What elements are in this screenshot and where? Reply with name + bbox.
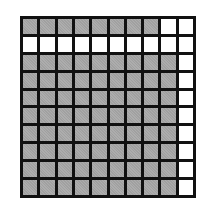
shaded-cell: [144, 55, 158, 70]
shaded-cell: [92, 144, 106, 159]
shaded-cell: [110, 91, 124, 106]
empty-cell: [161, 37, 175, 52]
shaded-cell: [40, 162, 54, 177]
shaded-cell: [75, 19, 89, 34]
shaded-cell: [40, 180, 54, 195]
empty-cell: [161, 19, 175, 34]
shaded-cell: [40, 73, 54, 88]
shaded-cell: [75, 55, 89, 70]
shaded-cell: [144, 126, 158, 141]
shaded-cell: [40, 19, 54, 34]
shaded-cell: [58, 91, 72, 106]
shaded-cell: [161, 162, 175, 177]
shaded-cell: [127, 19, 141, 34]
shaded-cell: [161, 108, 175, 123]
empty-cell: [92, 37, 106, 52]
shaded-cell: [75, 144, 89, 159]
shaded-cell: [144, 144, 158, 159]
empty-cell: [75, 37, 89, 52]
shaded-cell: [110, 126, 124, 141]
shaded-cell: [110, 180, 124, 195]
empty-cell: [179, 180, 193, 195]
shaded-cell: [161, 73, 175, 88]
shaded-cell: [110, 73, 124, 88]
empty-cell: [179, 162, 193, 177]
shaded-cell: [144, 91, 158, 106]
shaded-cell: [23, 180, 37, 195]
empty-cell: [179, 19, 193, 34]
shaded-cell: [40, 55, 54, 70]
empty-cell: [179, 144, 193, 159]
shaded-cell: [58, 162, 72, 177]
shaded-cell: [92, 19, 106, 34]
shaded-cell: [110, 162, 124, 177]
shaded-cell: [40, 126, 54, 141]
shaded-cell: [127, 73, 141, 88]
shaded-cell: [75, 108, 89, 123]
shaded-cell: [92, 55, 106, 70]
shaded-cell: [75, 180, 89, 195]
shaded-cell: [144, 73, 158, 88]
shaded-cell: [58, 126, 72, 141]
empty-cell: [179, 37, 193, 52]
shaded-cell: [92, 180, 106, 195]
empty-cell: [58, 37, 72, 52]
shaded-cell: [40, 144, 54, 159]
shaded-cell: [110, 19, 124, 34]
shaded-cell: [127, 91, 141, 106]
shaded-cell: [144, 162, 158, 177]
shaded-cell: [75, 162, 89, 177]
shaded-cell: [161, 126, 175, 141]
shaded-cell: [110, 108, 124, 123]
shaded-cell: [23, 108, 37, 123]
shaded-cell: [92, 73, 106, 88]
shaded-cell: [110, 144, 124, 159]
shaded-cell: [127, 144, 141, 159]
shaded-cell: [92, 91, 106, 106]
shaded-cell: [23, 91, 37, 106]
shaded-cell: [161, 91, 175, 106]
shaded-cell: [75, 73, 89, 88]
shaded-cell: [58, 144, 72, 159]
shaded-cell: [127, 180, 141, 195]
shaded-cell: [40, 91, 54, 106]
shaded-cell: [58, 108, 72, 123]
shaded-cell: [144, 108, 158, 123]
shaded-cell: [58, 73, 72, 88]
empty-cell: [179, 108, 193, 123]
shaded-cell: [40, 108, 54, 123]
shaded-cell: [92, 162, 106, 177]
shaded-cell: [58, 180, 72, 195]
shaded-cell: [127, 162, 141, 177]
shaded-cell: [23, 144, 37, 159]
shaded-cell: [75, 91, 89, 106]
empty-cell: [179, 73, 193, 88]
shaded-cell: [23, 73, 37, 88]
shaded-cell: [161, 144, 175, 159]
hundred-grid: [20, 16, 196, 198]
shaded-cell: [144, 180, 158, 195]
shaded-cell: [92, 126, 106, 141]
shaded-cell: [161, 180, 175, 195]
shaded-cell: [110, 55, 124, 70]
empty-cell: [127, 37, 141, 52]
empty-cell: [110, 37, 124, 52]
shaded-cell: [127, 126, 141, 141]
shaded-cell: [144, 19, 158, 34]
shaded-cell: [23, 162, 37, 177]
shaded-cell: [127, 55, 141, 70]
empty-cell: [23, 37, 37, 52]
shaded-cell: [161, 55, 175, 70]
empty-cell: [179, 91, 193, 106]
shaded-cell: [58, 55, 72, 70]
shaded-cell: [23, 126, 37, 141]
shaded-cell: [127, 108, 141, 123]
empty-cell: [179, 55, 193, 70]
shaded-cell: [23, 55, 37, 70]
empty-cell: [179, 126, 193, 141]
empty-cell: [40, 37, 54, 52]
shaded-cell: [23, 19, 37, 34]
empty-cell: [144, 37, 158, 52]
shaded-cell: [58, 19, 72, 34]
shaded-cell: [75, 126, 89, 141]
